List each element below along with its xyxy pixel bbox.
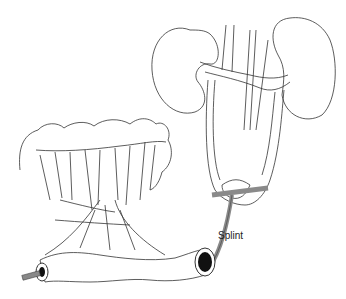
ileal-conduit (40, 250, 205, 282)
splint-label: Splint (218, 230, 243, 241)
transverse-colon (20, 119, 172, 190)
right-kidney (273, 18, 335, 119)
bladder (206, 80, 284, 205)
left-kidney (152, 28, 218, 113)
anatomy-diagram (0, 0, 346, 299)
